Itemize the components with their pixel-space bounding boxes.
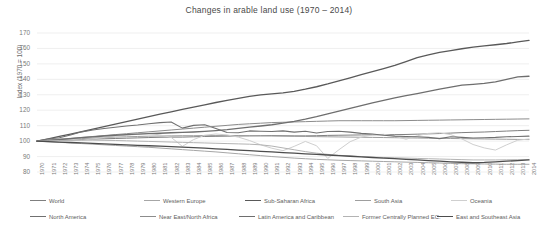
legend-label: Latin America and Caribbean bbox=[258, 214, 334, 220]
legend-item[interactable]: North America bbox=[30, 214, 86, 220]
legend-line-swatch bbox=[30, 216, 46, 217]
legend-label: North America bbox=[49, 214, 86, 220]
legend-line-swatch bbox=[343, 216, 359, 217]
legend-line-swatch bbox=[355, 200, 371, 201]
legend-row-1: WorldWestern EuropeSub-Saharan AfricaSou… bbox=[0, 194, 538, 207]
series-lines bbox=[0, 0, 538, 195]
chart-legend: WorldWestern EuropeSub-Saharan AfricaSou… bbox=[0, 194, 538, 236]
legend-label: South Asia bbox=[374, 198, 402, 204]
plot-area: Index (1970 = 100) 809010011012013014015… bbox=[0, 0, 538, 195]
legend-label: East and Southeast Asia bbox=[456, 214, 520, 220]
legend-line-swatch bbox=[140, 216, 156, 217]
legend-line-swatch bbox=[245, 200, 261, 201]
legend-item[interactable]: Latin America and Caribbean bbox=[239, 214, 334, 220]
legend-item[interactable]: Oceania bbox=[451, 198, 492, 204]
legend-label: Near East/North Africa bbox=[159, 214, 218, 220]
legend-label: Oceania bbox=[470, 198, 492, 204]
legend-label: Former Centrally Planned EC. bbox=[362, 214, 441, 220]
legend-item[interactable]: Former Centrally Planned EC. bbox=[343, 214, 441, 220]
legend-label: World bbox=[49, 198, 64, 204]
legend-label: Western Europe bbox=[163, 198, 205, 204]
legend-item[interactable]: South Asia bbox=[355, 198, 402, 204]
legend-line-swatch bbox=[239, 216, 255, 217]
legend-line-swatch bbox=[437, 216, 453, 217]
legend-row-2: North AmericaNear East/North AfricaLatin… bbox=[0, 210, 538, 223]
legend-item[interactable]: East and Southeast Asia bbox=[437, 214, 520, 220]
legend-line-swatch bbox=[30, 200, 46, 201]
legend-item[interactable]: Near East/North Africa bbox=[140, 214, 218, 220]
legend-item[interactable]: World bbox=[30, 198, 64, 204]
legend-item[interactable]: Sub-Saharan Africa bbox=[245, 198, 315, 204]
chart-container: Changes in arable land use (1970 – 2014)… bbox=[0, 0, 538, 236]
legend-line-swatch bbox=[144, 200, 160, 201]
legend-line-swatch bbox=[451, 200, 467, 201]
legend-item[interactable]: Western Europe bbox=[144, 198, 205, 204]
legend-label: Sub-Saharan Africa bbox=[264, 198, 315, 204]
